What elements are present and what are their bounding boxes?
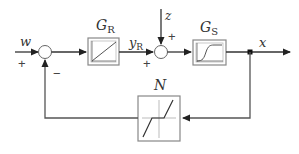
plant-block [193, 40, 226, 65]
summing-junction-2 [155, 46, 168, 59]
nonlinear-feedback-block [138, 96, 180, 141]
plant-label: GS [200, 19, 218, 37]
controller-output-label: yR [128, 35, 143, 52]
sum1-plus-sign: + [18, 56, 26, 71]
sum2-plus-sign-top: + [168, 29, 176, 44]
controller-label: GR [96, 17, 115, 35]
feedback-label: N [153, 77, 167, 93]
disturbance-label: z [164, 9, 172, 23]
summing-junction-1 [39, 46, 52, 59]
sum1-minus-sign: − [53, 66, 61, 81]
sum2-plus-sign-left: + [143, 56, 151, 71]
reference-label: w [20, 34, 31, 49]
output-label: x [259, 35, 267, 50]
block-diagram: w + − GR yR + z + GS x [0, 0, 299, 154]
controller-block [88, 38, 119, 65]
